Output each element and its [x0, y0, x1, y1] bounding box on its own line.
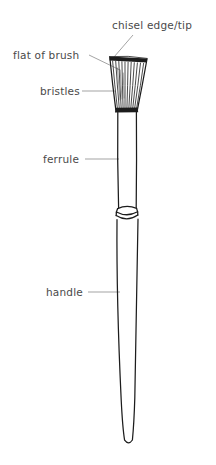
label-bristles: bristles [40, 85, 80, 97]
diagram-labels: chisel edge/tip flat of brush bristles f… [13, 19, 192, 298]
brush-anatomy-diagram: chisel edge/tip flat of brush bristles f… [0, 0, 216, 465]
ferrule-ring-lower [116, 215, 138, 219]
bristle-strand [133, 63, 138, 110]
ferrule-ring-middle [116, 212, 137, 215]
label-chisel-edge-tip: chisel edge/tip [112, 19, 192, 31]
handle-outline [117, 219, 138, 443]
label-handle: handle [46, 286, 83, 298]
label-flat-of-brush: flat of brush [13, 49, 79, 61]
ferrule-ring-upper [118, 206, 137, 208]
bristle-strand [122, 62, 123, 109]
ferrule-left-edge [118, 112, 119, 207]
paintbrush-illustration [109, 56, 147, 443]
bristle-strand [127, 62, 128, 109]
bristle-right-edge [137, 59, 147, 110]
handle [117, 219, 138, 443]
leader-chisel-edge-tip [114, 35, 133, 57]
bristle-base-band [115, 108, 138, 113]
chisel-edge-icon [109, 56, 147, 62]
bristle-strand [129, 62, 131, 109]
bristle-head [110, 57, 147, 112]
brush-diagram-canvas: chisel edge/tip flat of brush bristles f… [0, 0, 216, 465]
label-ferrule: ferrule [43, 153, 79, 165]
shading-stroke [123, 73, 124, 98]
ferrule [118, 112, 137, 207]
ferrule-rings [116, 206, 138, 218]
